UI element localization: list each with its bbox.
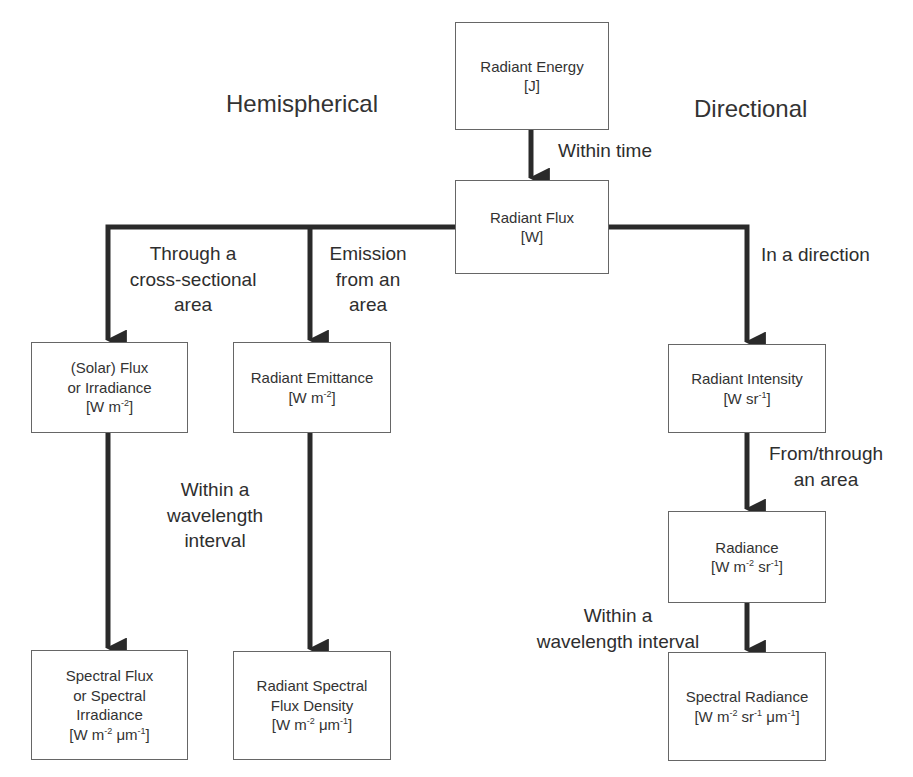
node-radiant-energy: Radiant Energy [J]: [455, 22, 609, 130]
arrow-to-radiant-intensity: [608, 227, 747, 342]
node-radiant-emittance: Radiant Emittance [W m-2]: [233, 342, 391, 433]
node-unit: [W m-2]: [288, 388, 335, 408]
edge-label-within-time: Within time: [558, 138, 652, 164]
edge-label-emission-from-area: Emission from an area: [318, 241, 418, 318]
edge-label-through-cross-section: Through a cross-sectional area: [118, 241, 268, 318]
heading-hemispherical: Hemispherical: [226, 90, 378, 118]
node-radiant-spectral-flux-density: Radiant Spectral Flux Density [W m-2 μm-…: [233, 651, 391, 760]
node-unit: [W m-2 μm-1]: [69, 725, 150, 745]
node-unit: [W m-2 μm-1]: [272, 715, 353, 735]
edge-label-from-through-area: From/through an area: [756, 441, 896, 492]
node-name: Radiant Emittance: [251, 368, 374, 388]
node-unit: [W m-2 sr-1]: [711, 557, 783, 577]
node-radiant-flux: Radiant Flux [W]: [455, 180, 609, 274]
node-radiant-intensity: Radiant Intensity [W sr-1]: [668, 344, 826, 433]
node-unit: [W m-2]: [86, 397, 133, 417]
node-name: Radiant Spectral Flux Density: [257, 676, 368, 715]
node-name: Radiance: [715, 538, 778, 558]
node-unit: [W sr-1]: [723, 389, 770, 409]
node-unit: [W m-2 sr-1 μm-1]: [694, 707, 799, 727]
node-name: Spectral Flux or Spectral Irradiance: [66, 666, 154, 725]
node-solar-flux-irradiance: (Solar) Flux or Irradiance [W m-2]: [31, 342, 188, 433]
node-name: Radiant Intensity: [691, 369, 803, 389]
heading-directional: Directional: [694, 95, 807, 123]
node-name: Radiant Flux: [490, 208, 574, 228]
node-unit: [W]: [521, 227, 544, 247]
node-spectral-radiance: Spectral Radiance [W m-2 sr-1 μm-1]: [668, 652, 826, 761]
node-name: (Solar) Flux or Irradiance: [67, 358, 151, 397]
edge-label-within-wavelength-right: Within a wavelength interval: [518, 603, 718, 654]
node-name: Spectral Radiance: [686, 687, 809, 707]
edge-label-in-a-direction: In a direction: [761, 242, 870, 268]
node-unit: [J]: [524, 76, 540, 96]
node-radiance: Radiance [W m-2 sr-1]: [668, 511, 826, 603]
node-spectral-flux-irradiance: Spectral Flux or Spectral Irradiance [W …: [31, 650, 188, 760]
node-name: Radiant Energy: [480, 57, 583, 77]
edge-label-within-wavelength-left: Within a wavelength interval: [150, 477, 280, 554]
